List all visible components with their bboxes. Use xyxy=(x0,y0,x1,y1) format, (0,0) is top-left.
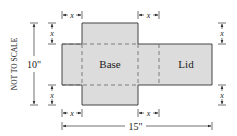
x-label-left-bottom: x xyxy=(49,91,54,100)
box-net-diagram: Base Lid NOT TO SCALE 10" x x x x xyxy=(0,0,237,136)
x-label-bottom-right: x xyxy=(146,109,151,118)
not-to-scale-note: NOT TO SCALE xyxy=(10,37,19,90)
lid-label: Lid xyxy=(178,58,194,70)
height-label: 10" xyxy=(27,59,41,70)
width-label: 15" xyxy=(128,121,142,132)
x-label-top-left: x xyxy=(69,11,74,20)
base-label: Base xyxy=(99,58,121,70)
x-label-bottom-left: x xyxy=(69,109,74,118)
x-label-right-bottom: x xyxy=(219,91,224,100)
x-label-left-top: x xyxy=(49,29,54,38)
x-label-right-top: x xyxy=(219,29,224,38)
x-label-top-right: x xyxy=(146,11,151,20)
